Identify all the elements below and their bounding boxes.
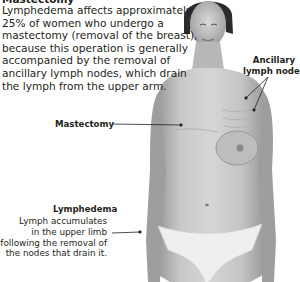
ancillary-lymph-nodes-label: Ancillary lymph nodes — [243, 55, 300, 76]
label-line: Lymph accumulates — [0, 216, 107, 227]
label-line: the nodes that drain it. — [0, 248, 107, 259]
lymphedema-leader — [112, 232, 140, 233]
intro-line: accompanied by the removal of — [2, 54, 192, 67]
label-line: lymph nodes — [243, 66, 300, 77]
intro-paragraph: Lymphedema affects approximately 25% of … — [2, 4, 192, 92]
label-line: Ancillary — [243, 55, 300, 66]
intro-line: ancillary lymph nodes, which drain — [2, 67, 192, 80]
intro-line: 25% of women who undergo a — [2, 17, 192, 30]
label-line: in the upper limb — [0, 227, 107, 238]
intro-line: Lymphedema affects approximately — [2, 4, 192, 17]
lymphedema-description: Lymph accumulates in the upper limb foll… — [0, 216, 107, 259]
label-line: following the removal of — [0, 238, 107, 249]
intro-line: mastectomy (removal of the breast), — [2, 29, 192, 42]
intro-line: because this operation is generally — [2, 42, 192, 55]
lymphedema-label-title: Lymphedema — [53, 204, 117, 215]
intro-line: the lymph from the upper arm. — [2, 80, 192, 93]
mastectomy-label: Mastectomy — [55, 119, 114, 130]
